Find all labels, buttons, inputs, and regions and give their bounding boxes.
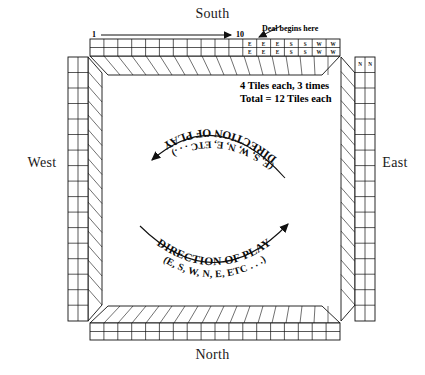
tile-label: E <box>276 49 280 55</box>
compass-label-east: East <box>370 155 420 171</box>
tile-label: W <box>330 49 336 55</box>
east-wall-side <box>341 57 355 321</box>
tile-label: W <box>317 41 323 47</box>
compass-label-west: West <box>10 155 74 171</box>
range-start-label: 1 <box>92 30 96 39</box>
tile-label: W <box>330 41 336 47</box>
tile-label: E <box>248 41 252 47</box>
south-wall-underside <box>90 56 340 75</box>
diagram-canvas: E E E E E E S S S S W W W W <box>0 0 425 375</box>
north-wall-topside <box>90 306 340 323</box>
tile-count-note-line2: Total = 12 Tiles each <box>240 92 332 105</box>
tile-label: E <box>262 49 266 55</box>
south-wall: E E E E E E S S S S W W W W <box>90 39 340 75</box>
compass-label-north: North <box>0 347 425 363</box>
tile-label: E <box>276 41 280 47</box>
tile-count-note-line1: 4 Tiles each, 3 times <box>240 79 332 92</box>
tile-label: N <box>358 61 362 67</box>
north-wall <box>90 306 340 340</box>
north-wall-face <box>90 323 340 340</box>
east-wall: N N <box>341 57 375 321</box>
tile-label: S <box>304 49 307 55</box>
tile-label: E <box>248 49 252 55</box>
tile-label: N <box>368 61 372 67</box>
tile-label: S <box>290 41 293 47</box>
west-wall-face <box>68 57 88 321</box>
east-wall-face <box>355 57 375 321</box>
direction-of-play-arc-upper: DIRECTION OF PLAY (E, S, W, N, E, ETC . … <box>152 127 285 178</box>
tile-label: S <box>290 49 293 55</box>
west-wall <box>68 57 102 321</box>
direction-of-play-arc-lower: DIRECTION OF PLAY (E, S, W, N, E, ETC . … <box>140 224 288 279</box>
range-end-label: 10 <box>236 30 244 39</box>
tile-label: E <box>262 41 266 47</box>
mahjong-wall-illustration: E E E E E E S S S S W W W W <box>0 0 425 375</box>
west-wall-side <box>88 57 102 321</box>
tile-count-note: 4 Tiles each, 3 times Total = 12 Tiles e… <box>240 79 332 105</box>
compass-label-south: South <box>0 6 425 22</box>
tile-label: W <box>317 49 323 55</box>
tile-label: S <box>304 41 307 47</box>
deal-begins-here-label: Deal begins here <box>262 24 318 33</box>
south-wall-face <box>90 39 340 56</box>
